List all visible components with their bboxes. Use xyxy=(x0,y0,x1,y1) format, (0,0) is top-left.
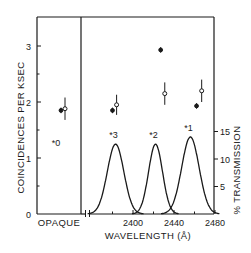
filled-data-point xyxy=(59,109,63,113)
left-tick-label: 2 xyxy=(26,98,31,108)
transmission-curve-3 xyxy=(88,144,144,214)
transmission-curves xyxy=(88,137,220,214)
x-axis-title: WAVELENGTH (Å) xyxy=(105,230,191,241)
filter-label: *2 xyxy=(149,130,158,140)
x-tick-label: 2480 xyxy=(205,218,225,228)
transmission-curve-1 xyxy=(161,137,219,214)
filter-label: *3 xyxy=(109,130,118,140)
left-tick-label: 3 xyxy=(26,42,31,52)
axis-labels: 012351015240024402480OPAQUEWAVELENGTH (Å… xyxy=(15,42,242,242)
right-tick-label: 15 xyxy=(220,127,230,137)
filled-data-point xyxy=(159,48,163,52)
open-data-point xyxy=(163,92,167,96)
filled-data-point xyxy=(195,104,199,108)
plot-frame xyxy=(37,17,214,217)
right-tick-label: 10 xyxy=(220,155,230,165)
x-tick-label: 2400 xyxy=(123,218,143,228)
left-tick-label: 0 xyxy=(26,210,31,220)
x-tick-label: 2440 xyxy=(164,218,184,228)
chart: 012351015240024402480OPAQUEWAVELENGTH (Å… xyxy=(0,0,251,253)
filled-data-point xyxy=(111,109,115,113)
left-axis-title: COINCIDENCES PER KSEC xyxy=(15,62,26,194)
left-tick-label: 1 xyxy=(26,154,31,164)
right-axis-title: % TRANSMISSION xyxy=(231,126,242,215)
right-tick-label: 5 xyxy=(220,182,225,192)
transmission-curve-2 xyxy=(132,144,179,214)
open-data-point xyxy=(63,107,67,111)
filter-label: *1 xyxy=(184,123,193,133)
open-data-point xyxy=(115,103,119,107)
opaque-label: OPAQUE xyxy=(38,217,80,228)
open-data-point xyxy=(200,89,204,93)
filter-label-0: *0 xyxy=(52,138,61,148)
